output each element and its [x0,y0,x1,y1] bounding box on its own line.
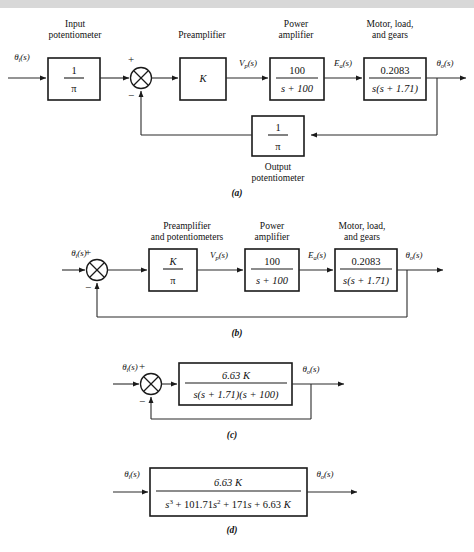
forward-path-denominator-c: s(s + 1.71)(s + 100) [193,389,279,401]
caption-b: (b) [231,328,242,339]
diagram-b: Preamplifier and potentiometers Power am… [62,221,443,339]
motor-denominator: s(s + 1.71) [372,83,418,95]
power-amp-numerator-b: 100 [264,256,280,267]
power-amp-numerator: 100 [289,65,305,76]
signal-theta-i-a: θi(s) [14,52,30,63]
preamplifier-title: Preamplifier [178,30,226,40]
closed-loop-denominator-d: s3 + 101.71s2 + 171s + 6.63 K [165,498,291,510]
summing-junction-b[interactable] [87,260,108,281]
motor-numerator: 0.2083 [381,65,410,76]
diagram-a: Input potentiometer Preamplifier Power a… [8,19,466,199]
diagram-d: θi(s) 6.63 K s3 + 101.71s2 + 171s + 6.63… [113,468,357,536]
signal-theta-o-a: θo(s) [436,58,453,69]
signal-ea-b: Ea(s) [307,250,326,261]
input-pot-numerator: 1 [71,65,76,76]
input-potentiometer-title-line2: potentiometer [49,30,103,40]
figure-page: Input potentiometer Preamplifier Power a… [0,0,474,552]
output-pot-denominator: π [275,141,281,152]
signal-ea-a: Ea(s) [333,58,352,69]
caption-a: (a) [231,188,242,199]
den-term3: + 171 [221,499,248,510]
signal-theta-o-b: θo(s) [405,250,422,261]
den-term4: + 6.63 [252,499,284,510]
den-term4-var: K [283,499,292,510]
signal-vp-a: Vp(s) [239,58,257,69]
motor-title-line2-b: and gears [344,232,380,242]
sum-minus-sign-c: − [139,395,145,407]
preamp-pots-title-line1: Preamplifier [163,221,211,231]
power-amp-denominator-b: s + 100 [256,275,289,286]
signal-theta-o-d: θo(s) [316,469,333,480]
sum-minus-sign-b: − [85,281,91,293]
den-term2-coef: + 101.71 [173,499,213,510]
signal-vp-b: Vp(s) [210,250,228,261]
caption-c: (c) [227,430,238,441]
sum-plus-sign-b: + [85,246,91,258]
block-diagram-canvas: Input potentiometer Preamplifier Power a… [0,0,474,552]
motor-load-gears-title-line1: Motor, load, [367,19,414,29]
motor-load-gears-title-line2: and gears [372,30,408,40]
preamp-pots-denominator: π [170,275,176,286]
preamp-pots-title-line2: and potentiometers [151,232,224,242]
power-amplifier-title-line2-b: amplifier [255,232,291,242]
input-potentiometer-title-line1: Input [65,19,85,29]
forward-path-numerator-c: 6.63 K [222,370,251,381]
signal-theta-i-c: θi(s) [122,362,138,373]
power-amplifier-title-line1: Power [284,19,309,29]
power-amp-denominator: s + 100 [281,83,314,94]
summing-junction-c[interactable] [141,374,162,395]
output-potentiometer-title-line2: potentiometer [252,173,306,183]
caption-d: (d) [226,525,237,536]
motor-numerator-b: 0.2083 [352,256,381,267]
signal-theta-o-c: θo(s) [302,364,319,375]
sum-minus-sign-a: − [128,89,134,101]
summing-junction-a[interactable] [131,68,152,89]
preamplifier-gain: K [198,73,207,84]
sum-plus-sign-c: + [139,360,145,372]
diagram-c: θi(s) + − 6.63 K s(s + 1.71)(s + 100) θo… [113,360,344,441]
power-amplifier-title-line1-b: Power [260,221,285,231]
motor-title-line1-b: Motor, load, [339,221,386,231]
motor-denominator-b: s(s + 1.71) [343,275,389,287]
output-pot-numerator: 1 [275,122,280,133]
input-pot-denominator: π [71,83,77,94]
preamp-pots-numerator: K [168,256,177,267]
closed-loop-numerator-d: 6.63 K [214,477,243,488]
signal-theta-i-d: θi(s) [124,469,140,480]
output-potentiometer-title-line1: Output [265,162,292,172]
sum-plus-sign-a: + [128,53,134,65]
power-amplifier-title-line2: amplifier [279,30,315,40]
